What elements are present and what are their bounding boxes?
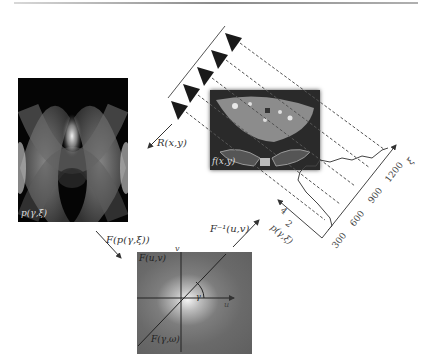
- source-triangles: [171, 33, 242, 120]
- projection-slice-line: [138, 254, 226, 346]
- diagram-overlay: [0, 0, 428, 364]
- v-axis-label: v: [175, 244, 180, 253]
- projection-rays: [186, 43, 385, 220]
- radon-label: R(x,y): [157, 137, 187, 148]
- inverse-fourier-label: F⁻¹(u,v): [210, 223, 249, 234]
- fourier-label: F(p(γ,ξ)): [106, 234, 150, 245]
- u-axis-label: u: [224, 300, 229, 309]
